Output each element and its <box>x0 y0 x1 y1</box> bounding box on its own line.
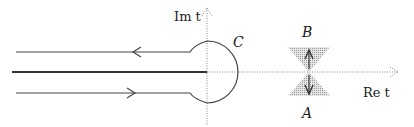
real-axis-arrow-icon <box>390 67 398 77</box>
imaginary-axis-label: Im t <box>174 10 201 23</box>
point-a-label: A <box>302 106 312 120</box>
contour-diagram <box>0 0 414 127</box>
point-b-label: B <box>302 25 312 39</box>
real-axis-label: Re t <box>363 86 390 99</box>
contour-label: C <box>233 35 244 49</box>
imaginary-axis-arrow-icon <box>202 8 212 16</box>
